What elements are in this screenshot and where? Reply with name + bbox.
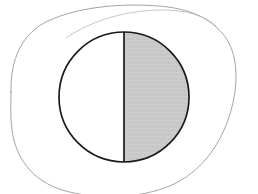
figure-canvas: Half-shaded circle inside a hand-drawn o… [0,0,258,194]
diagram-svg [0,0,258,194]
